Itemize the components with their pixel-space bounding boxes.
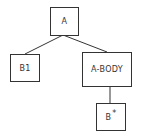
edge-a-b1	[25, 35, 63, 54]
edge-a-abody	[63, 35, 107, 52]
node-a-label: A	[62, 17, 68, 26]
node-b-star: B*	[96, 103, 126, 131]
node-b-star-label: B	[105, 113, 111, 122]
node-b1: B1	[10, 54, 40, 82]
node-a: A	[50, 7, 79, 36]
node-a-body-label: A-BODY	[91, 65, 123, 74]
node-b-star-superscript: *	[112, 109, 116, 118]
node-a-body: A-BODY	[82, 52, 132, 87]
node-b1-label: B1	[19, 64, 30, 73]
